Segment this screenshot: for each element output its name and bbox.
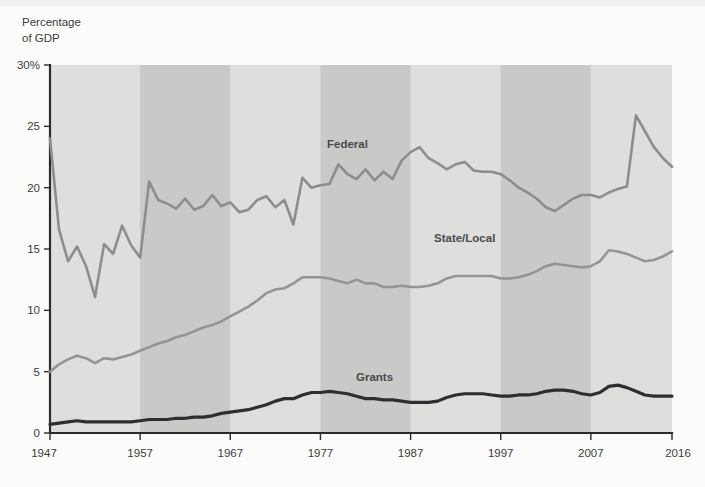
y-axis-title-line1: Percentage bbox=[22, 16, 81, 28]
y-tick-label-15: 15 bbox=[27, 243, 40, 255]
chart-figure: 051015202530%194719571967197719871997200… bbox=[0, 0, 705, 487]
background-band-6 bbox=[591, 65, 672, 433]
series-label-state-local: State/Local bbox=[434, 232, 495, 244]
x-tick-label-1957: 1957 bbox=[127, 447, 153, 459]
y-tick-label-5: 5 bbox=[34, 366, 40, 378]
x-tick-label-1967: 1967 bbox=[217, 447, 243, 459]
x-tick-label-2007: 2007 bbox=[578, 447, 604, 459]
y-tick-label-10: 10 bbox=[27, 304, 40, 316]
y-tick-label-0: 0 bbox=[34, 427, 40, 439]
x-tick-label-1947: 1947 bbox=[31, 447, 57, 459]
y-tick-label-25: 25 bbox=[27, 120, 40, 132]
background-band-1 bbox=[140, 65, 230, 433]
background-band-2 bbox=[230, 65, 320, 433]
background-band-5 bbox=[501, 65, 591, 433]
gdp-line-chart: 051015202530%194719571967197719871997200… bbox=[0, 0, 705, 487]
background-band-4 bbox=[411, 65, 501, 433]
series-label-grants: Grants bbox=[356, 371, 393, 383]
series-label-federal: Federal bbox=[327, 138, 368, 150]
x-tick-label-1987: 1987 bbox=[398, 447, 424, 459]
y-tick-label-20: 20 bbox=[27, 182, 40, 194]
y-axis-title-line2: of GDP bbox=[22, 32, 60, 44]
y-tick-label-30%: 30% bbox=[17, 59, 40, 71]
x-tick-label-1997: 1997 bbox=[488, 447, 514, 459]
x-tick-label-1977: 1977 bbox=[308, 447, 334, 459]
x-tick-label-2016: 2016 bbox=[665, 447, 691, 459]
